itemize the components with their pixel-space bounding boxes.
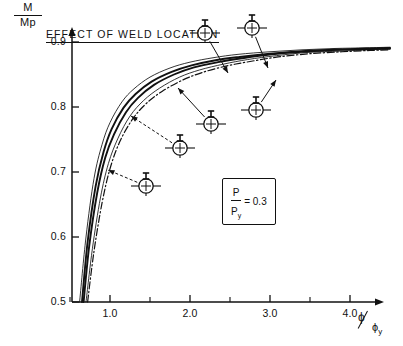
i-beam-weld-glyph xyxy=(177,135,183,141)
marker-layer xyxy=(108,15,276,196)
x-axis-tick-label: 3.0 xyxy=(257,307,283,319)
chart-root: M Mp EFFECT OF WELD LOCATION P Py = 0.3 … xyxy=(0,0,403,346)
y-axis-tick-label: 0.5 xyxy=(40,295,66,307)
weld-section-marker-3 xyxy=(241,80,276,120)
curve-layer xyxy=(80,47,390,302)
y-axis-tick-label: 0.9 xyxy=(40,35,66,47)
y-axis-tick-label: 0.7 xyxy=(40,165,66,177)
i-beam-weld-glyph xyxy=(249,15,255,21)
x-axis-tick-label: 4.0 xyxy=(337,307,363,319)
curve-curve-2-thick xyxy=(82,48,390,302)
y-axis-tick-label: 0.8 xyxy=(40,100,66,112)
curve-curve-5-lower-thin xyxy=(86,49,390,302)
leader-arrowhead xyxy=(263,61,268,68)
x-axis-arrowhead xyxy=(375,298,384,305)
leader-line xyxy=(131,116,172,143)
weld-section-marker-2 xyxy=(237,15,268,68)
curve-curve-4-dashdot xyxy=(88,50,390,302)
weld-section-marker-5 xyxy=(131,116,195,158)
y-axis-tick-label: 0.6 xyxy=(40,230,66,242)
weld-section-marker-6 xyxy=(108,170,161,196)
x-axis-tick-label: 2.0 xyxy=(177,307,203,319)
i-beam-weld-glyph xyxy=(253,97,259,103)
weld-section-marker-4 xyxy=(178,88,226,134)
leader-arrowhead xyxy=(270,80,276,87)
i-beam-weld-glyph xyxy=(208,111,214,117)
i-beam-weld-glyph xyxy=(143,173,149,179)
x-axis-tick-label: 1.0 xyxy=(97,307,123,319)
curve-curve-3-thick xyxy=(84,49,390,303)
curve-curve-1-uppermost-thin xyxy=(80,47,390,302)
i-beam-weld-glyph xyxy=(202,20,208,26)
y-axis-arrowhead xyxy=(68,27,75,36)
